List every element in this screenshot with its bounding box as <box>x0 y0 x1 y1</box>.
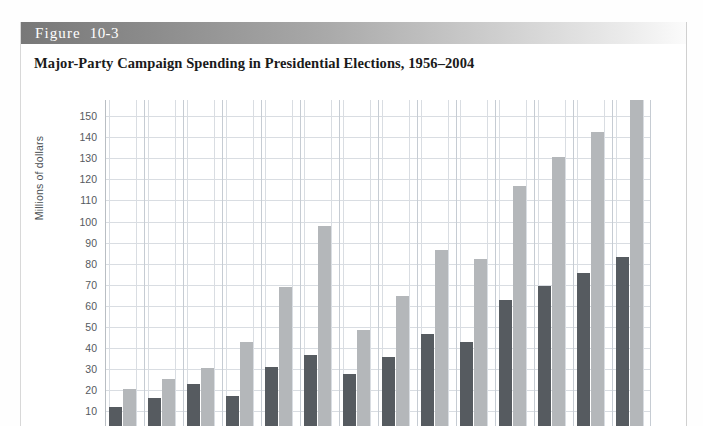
y-axis-line <box>105 100 106 426</box>
bar-republican <box>318 226 332 426</box>
bar-democratic <box>460 342 474 426</box>
y-tick-label: 100 <box>79 216 97 228</box>
y-tick-label: 60 <box>85 300 97 312</box>
y-tick-label: 140 <box>79 131 97 143</box>
bar-democratic <box>421 334 435 426</box>
bar-democratic <box>148 398 162 426</box>
bar-democratic <box>382 357 396 426</box>
bar-democratic <box>538 286 552 426</box>
bar-republican <box>474 259 488 426</box>
bar-democratic <box>226 396 240 426</box>
y-axis-title: Millions of dollars <box>33 108 45 248</box>
bar-democratic <box>616 257 630 426</box>
bar-republican <box>396 296 410 426</box>
y-tick-label: 50 <box>85 321 97 333</box>
bar-democratic <box>265 367 279 426</box>
y-tick-label: 150 <box>79 110 97 122</box>
figure-container: Figure10-3 Major-Party Campaign Spending… <box>20 22 687 426</box>
bar-democratic <box>343 374 357 426</box>
bar-republican <box>240 342 254 426</box>
bar-republican <box>123 389 137 426</box>
y-tick-label: 20 <box>85 384 97 396</box>
y-tick-label: 10 <box>85 405 97 417</box>
bar-democratic <box>109 407 123 426</box>
bar-series-group <box>105 100 651 426</box>
plot-area <box>105 100 651 426</box>
bar-democratic <box>499 300 513 426</box>
y-tick-label: 30 <box>85 363 97 375</box>
y-tick-label: 90 <box>85 237 97 249</box>
bar-republican <box>279 287 293 426</box>
y-tick-label: 70 <box>85 279 97 291</box>
bar-republican <box>162 379 176 426</box>
bar-democratic <box>304 355 318 426</box>
y-tick-label: 130 <box>79 152 97 164</box>
bar-democratic <box>577 273 591 426</box>
bar-republican <box>591 132 605 426</box>
bar-republican <box>201 368 215 426</box>
y-tick-label: 120 <box>79 173 97 185</box>
bar-democratic <box>187 384 201 426</box>
y-tick-label: 80 <box>85 258 97 270</box>
bar-republican <box>357 330 371 426</box>
bar-republican <box>513 186 527 426</box>
figure-header-bar: Figure10-3 <box>21 22 686 44</box>
bar-republican <box>435 250 449 426</box>
figure-page: Figure10-3 Major-Party Campaign Spending… <box>0 0 703 426</box>
bar-republican <box>552 157 566 426</box>
bar-republican <box>630 100 644 426</box>
y-tick-label: 40 <box>85 342 97 354</box>
y-tick-label: 110 <box>80 194 97 206</box>
